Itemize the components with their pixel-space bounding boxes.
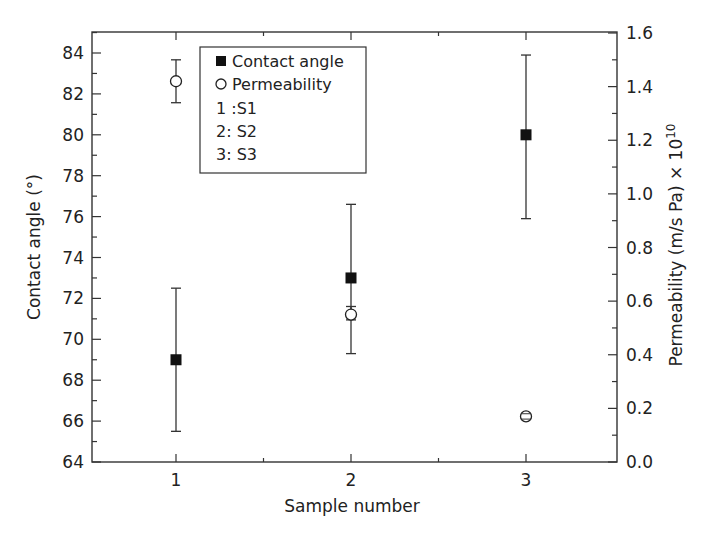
legend-entry-contact-angle: Contact angle	[232, 52, 344, 71]
permeability-point	[171, 76, 182, 87]
right-tick-label: 0.2	[626, 398, 653, 418]
contact-angle-point	[346, 272, 357, 283]
right-tick-label: 0.6	[626, 291, 653, 311]
left-tick-label: 82	[62, 84, 84, 104]
right-tick-label: 0.8	[626, 238, 653, 258]
left-tick-label: 70	[62, 329, 84, 349]
x-tick-label: 2	[346, 470, 357, 490]
y-right-label-exp: 10	[664, 123, 678, 138]
left-tick-label: 80	[62, 125, 84, 145]
y-axis-label: Contact angle (°)	[24, 174, 44, 320]
permeability-point	[346, 309, 357, 320]
left-tick-label: 72	[62, 288, 84, 308]
open-circle-icon	[216, 79, 226, 89]
legend-annotation-s1: 1 :S1	[216, 99, 257, 118]
right-tick-label: 1.0	[626, 184, 653, 204]
left-axis: 6466687072747678808284	[62, 33, 101, 472]
left-tick-label: 68	[62, 370, 84, 390]
right-tick-label: 1.6	[626, 23, 653, 43]
filled-square-icon	[216, 56, 226, 66]
x-tick-label: 1	[171, 470, 182, 490]
left-tick-label: 84	[62, 43, 84, 63]
right-tick-label: 1.2	[626, 130, 653, 150]
left-tick-label: 64	[62, 452, 84, 472]
legend-annotation-s3: 3: S3	[216, 145, 257, 164]
y-right-label-base: Permeability (m/s Pa) × 10	[666, 139, 686, 367]
contact-angle-point	[521, 129, 532, 140]
x-tick-label: 3	[521, 470, 532, 490]
legend-annotation-s2: 2: S2	[216, 122, 257, 141]
left-tick-label: 66	[62, 411, 84, 431]
right-tick-label: 0.4	[626, 345, 653, 365]
left-tick-label: 76	[62, 207, 84, 227]
contact-angle-point	[171, 354, 182, 365]
x-axis-label: Sample number	[284, 496, 420, 516]
legend: Contact angle Permeability 1 :S1 2: S2 3…	[200, 47, 366, 173]
right-tick-label: 1.4	[626, 77, 653, 97]
permeability-point	[521, 411, 532, 422]
legend-entry-permeability: Permeability	[232, 75, 332, 94]
right-tick-label: 0.0	[626, 452, 653, 472]
left-tick-label: 78	[62, 166, 84, 186]
y-axis-right-label: Permeability (m/s Pa) × 1010	[664, 123, 686, 366]
chart: 6466687072747678808284 0.00.20.40.60.81.…	[0, 0, 709, 547]
right-axis: 0.00.20.40.60.81.01.21.41.6	[608, 23, 653, 472]
left-tick-label: 74	[62, 248, 84, 268]
